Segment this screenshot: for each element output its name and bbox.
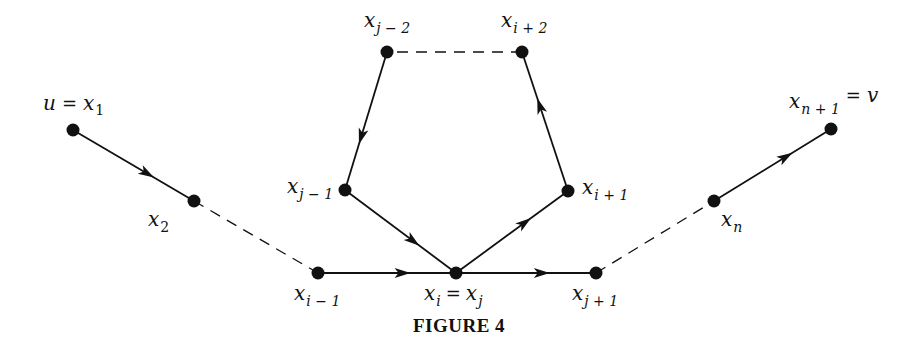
- label-xi-eq-xj: xi=xj: [424, 281, 483, 309]
- edge-xn-xn_plus_1: [714, 129, 831, 201]
- edge-xj_minus_1-xi_eq_xj: [345, 190, 456, 273]
- node-labels: u=x1 x2 xi − 1 xi=xj xj + 1 xj − 1 xj − …: [43, 8, 879, 309]
- node-xj_minus_1: [339, 184, 352, 197]
- label-xj-minus-2: xj − 2: [364, 8, 410, 36]
- label-xi-plus-1: xi + 1: [582, 175, 628, 203]
- edge-x1-x2: [73, 130, 194, 201]
- arrow-icon: [776, 148, 795, 165]
- arrow-icon: [354, 127, 368, 145]
- node-xi_plus_2: [516, 46, 529, 59]
- arrowheads: [138, 97, 795, 278]
- label-xj-plus-1: xj + 1: [572, 281, 618, 309]
- label-xi-minus-1: xi − 1: [294, 281, 340, 309]
- node-x1: [67, 124, 80, 137]
- node-x2: [188, 195, 201, 208]
- node-xn: [708, 195, 721, 208]
- edge-xi_eq_xj-xi_plus_1: [456, 191, 568, 273]
- arrow-icon: [404, 232, 423, 250]
- edges: [73, 52, 831, 273]
- graph-diagram: u=x1 x2 xi − 1 xi=xj xj + 1 xj − 1 xj − …: [0, 0, 918, 352]
- edge-x2-xi_minus_1: [194, 201, 318, 273]
- edge-xi_plus_1-xi_plus_2: [522, 52, 568, 191]
- label-x1: u=x1: [43, 91, 104, 118]
- node-xj_minus_2: [381, 46, 394, 59]
- edge-xj_plus_1-xn: [596, 201, 714, 273]
- node-xi_minus_1: [312, 267, 325, 280]
- figure-caption: FIGURE 4: [0, 315, 918, 337]
- node-xj_plus_1: [590, 267, 603, 280]
- label-xn-plus-1: xn + 1=v: [789, 83, 879, 117]
- label-x2: x2: [148, 207, 169, 235]
- nodes: [67, 46, 838, 280]
- edge-xj_minus_2-xj_minus_1: [345, 52, 387, 190]
- arrow-icon: [515, 214, 534, 232]
- node-xn_plus_1: [825, 123, 838, 136]
- label-xi-plus-2: xi + 2: [501, 8, 547, 36]
- arrow-icon: [138, 165, 157, 182]
- node-xi_plus_1: [562, 185, 575, 198]
- node-xi_eq_xj: [450, 267, 463, 280]
- label-xj-minus-1: xj − 1: [287, 174, 333, 202]
- label-xn: xn: [721, 207, 742, 235]
- arrow-icon: [533, 97, 548, 115]
